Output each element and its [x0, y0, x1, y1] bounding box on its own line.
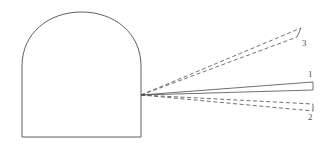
beam-1-label: 1: [308, 70, 313, 79]
beam-2-label: 2: [308, 113, 313, 122]
beam-3-label: 3: [302, 39, 307, 48]
diagram-canvas: [0, 0, 333, 155]
figure-root: 1 2 3: [0, 0, 333, 155]
canvas-background: [0, 0, 333, 155]
